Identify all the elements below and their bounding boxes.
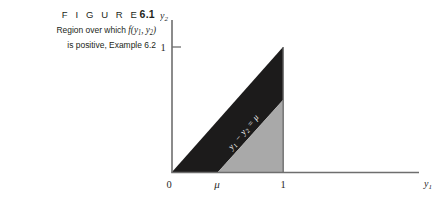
figure-number-line: F I G U R E6.1 [8, 8, 156, 21]
y-axis-label: y2 [160, 10, 168, 23]
figure-page: F I G U R E6.1 Region over which f(y1, y… [0, 0, 442, 199]
figure-number: 6.1 [140, 8, 156, 20]
x-tick-label-1: 1 [280, 179, 285, 190]
caption-line-1-text: Region over which [57, 24, 129, 35]
y-axis-label-sub: 2 [164, 15, 168, 23]
x-tick-label-origin: 0 [166, 179, 171, 190]
x-axis-label: y1 [423, 178, 432, 191]
x-tick-label-mu: μ [213, 178, 220, 190]
plot-area: y2 1 0 μ 1 y1 y1 − y2 = μ [160, 6, 442, 199]
figure-caption: F I G U R E6.1 Region over which f(y1, y… [8, 8, 156, 51]
caption-line-2: is positive, Example 6.2 [26, 39, 156, 51]
x-axis-label-sub: 1 [428, 183, 432, 191]
caption-paren-close: ) [153, 24, 156, 35]
figure-word: F I G U R E [62, 9, 140, 20]
caption-line-1: Region over which f(y1, y2) [26, 24, 156, 39]
y-tick-label-1: 1 [160, 42, 165, 53]
plot-svg: y2 1 0 μ 1 y1 y1 − y2 = μ [160, 6, 442, 199]
